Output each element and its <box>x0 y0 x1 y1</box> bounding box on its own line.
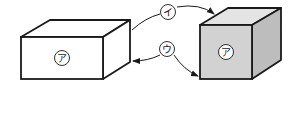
arrow-top-label: イ <box>163 7 173 18</box>
arrow-bottom-label: ウ <box>162 44 172 55</box>
diagram: ア ア イ ウ <box>0 0 302 115</box>
arrow-bottom: ウ <box>133 42 198 77</box>
right-cube-label: ア <box>221 47 231 58</box>
right-cube: ア <box>200 8 281 79</box>
left-box-label: ア <box>57 53 67 64</box>
left-box: ア <box>21 20 130 79</box>
